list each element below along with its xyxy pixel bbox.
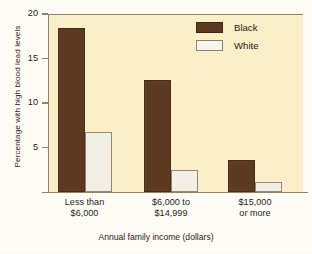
bar-black-group-3 — [228, 160, 255, 192]
x-axis-group-label-line: $14,999 — [123, 208, 219, 219]
x-axis-group-label-line: or more — [207, 208, 303, 219]
legend-swatch-white-icon — [196, 40, 223, 51]
y-axis-tick — [42, 102, 48, 103]
x-axis-line — [42, 192, 308, 193]
x-axis-group-label-1: Less than$6,000 — [37, 197, 133, 220]
x-axis-group-label-2: $6,000 to$14,999 — [123, 197, 219, 220]
x-axis-group-label-line: $6,000 to — [123, 197, 219, 208]
x-axis-group-label-line: $15,000 — [207, 197, 303, 208]
bar-white-group-2 — [171, 170, 198, 192]
x-axis-title: Annual family income (dollars) — [0, 232, 312, 242]
legend-label-black: Black — [234, 22, 257, 33]
bar-black-group-2 — [144, 80, 171, 192]
y-axis-tick-label: 10 — [0, 98, 38, 107]
y-axis-tick-label: 5 — [0, 143, 38, 152]
legend-item-black[interactable]: Black — [196, 20, 259, 35]
y-axis-tick — [42, 13, 48, 14]
y-axis-title: Percentage with high blood lead levels — [13, 7, 22, 187]
x-axis-group-label-3: $15,000or more — [207, 197, 303, 220]
legend-label-white: White — [234, 40, 259, 51]
legend: Black White — [196, 20, 259, 56]
bar-chart-figure: Percentage with high blood lead levels 5… — [0, 0, 312, 254]
bar-white-group-1 — [85, 132, 112, 192]
y-axis-tick-label: 15 — [0, 54, 38, 63]
y-axis-tick-label: 20 — [0, 9, 38, 18]
x-axis-group-label-line: $6,000 — [37, 208, 133, 219]
x-axis-group-label-line: Less than — [37, 197, 133, 208]
y-axis-tick — [42, 147, 48, 148]
legend-item-white[interactable]: White — [196, 38, 259, 53]
y-axis-tick — [42, 58, 48, 59]
bar-black-group-1 — [58, 28, 85, 192]
legend-swatch-black-icon — [196, 22, 223, 33]
bar-white-group-3 — [255, 182, 282, 192]
